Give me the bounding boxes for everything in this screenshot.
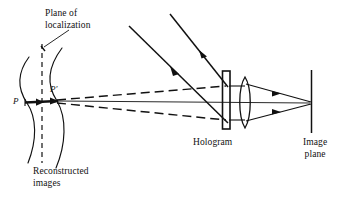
converging-ray-lower-arrow bbox=[272, 109, 281, 115]
illumination-ray-1-arrow bbox=[199, 50, 207, 59]
diverging-ray-lower bbox=[57, 103, 226, 120]
reconstructed-images-label: Reconstructed images bbox=[33, 166, 89, 189]
image-plane-label: Image plane bbox=[303, 137, 327, 160]
point-p-label: P bbox=[13, 96, 19, 108]
illumination-ray-1 bbox=[170, 14, 228, 87]
plane-of-localization-label: Plane of localization bbox=[45, 8, 91, 31]
figure-canvas: Plane of localization Reconstructed imag… bbox=[0, 0, 344, 199]
illumination-rays bbox=[129, 14, 228, 123]
plane-of-localization-leader bbox=[44, 30, 69, 47]
diverging-ray-upper bbox=[57, 86, 226, 100]
point-p-prime-label: P′ bbox=[50, 84, 58, 96]
hologram-label: Hologram bbox=[193, 137, 232, 149]
illumination-ray-2 bbox=[129, 26, 228, 123]
hologram-to-lens-rays bbox=[229, 86, 245, 120]
diverging-ray-axis bbox=[57, 101, 310, 103]
